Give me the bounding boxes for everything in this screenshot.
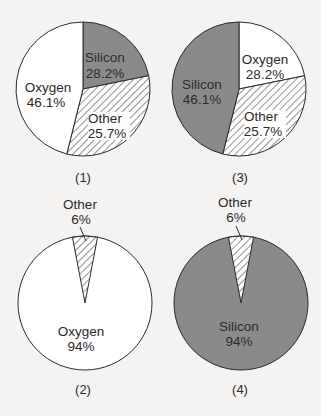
- pie1-silicon-name: Silicon: [85, 50, 125, 65]
- pie4-other-pct: 6%: [226, 210, 246, 225]
- pie2-other-name: Other: [63, 197, 97, 212]
- pie2-oxygen-name: Oxygen: [58, 324, 105, 339]
- pie-chart-2: Other 6% Oxygen 94% (2): [18, 197, 152, 397]
- pie1-oxygen-pct: 46.1%: [27, 95, 65, 110]
- pie-chart-3: Oxygen 28.2% Other 25.7% Silicon 46.1% (…: [172, 22, 306, 185]
- pie1-other-name: Other: [88, 111, 122, 126]
- pie2-other-pct: 6%: [71, 212, 91, 227]
- pie1-oxygen-name: Oxygen: [25, 80, 72, 95]
- pie-chart-4: Other 6% Silicon 94% (4): [174, 195, 308, 397]
- pie3-other-pct: 25.7%: [244, 124, 282, 139]
- pie4-silicon-pct: 94%: [225, 334, 252, 349]
- pie4-silicon-name: Silicon: [219, 319, 259, 334]
- pie3-oxygen-pct: 28.2%: [246, 67, 284, 82]
- pie3-oxygen-name: Oxygen: [242, 52, 289, 67]
- pie3-other-name: Other: [244, 109, 278, 124]
- pie2-caption: (2): [75, 382, 91, 397]
- pie3-silicon-pct: 46.1%: [183, 92, 221, 107]
- pie1-silicon-pct: 28.2%: [86, 66, 124, 81]
- pie1-other-pct: 25.7%: [88, 126, 126, 141]
- pie2-oxygen-pct: 94%: [67, 339, 94, 354]
- pie3-silicon-name: Silicon: [182, 77, 222, 92]
- pie4-caption: (4): [232, 382, 248, 397]
- pie-chart-1: Silicon 28.2% Other 25.7% Oxygen 46.1% (…: [16, 22, 150, 185]
- pie4-other-name: Other: [218, 195, 252, 210]
- pie-charts-figure: Silicon 28.2% Other 25.7% Oxygen 46.1% (…: [0, 0, 321, 416]
- pie1-caption: (1): [75, 170, 91, 185]
- pie3-caption: (3): [232, 170, 248, 185]
